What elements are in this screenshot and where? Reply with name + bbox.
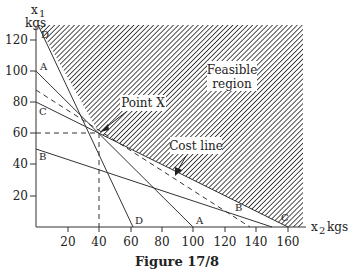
y-axis-var: x	[31, 3, 38, 17]
x-axis-unit: kgs	[327, 220, 348, 234]
label-b-right: B	[235, 202, 242, 213]
y-tick-120: 120	[5, 33, 28, 47]
y-ticks	[30, 40, 36, 196]
x-tick-160: 160	[277, 235, 300, 249]
y-tick-40: 40	[13, 157, 28, 171]
x-tick-120: 120	[214, 235, 237, 249]
feasible-label-1: Feasible	[207, 63, 258, 77]
y-axis-unit: kgs	[25, 16, 46, 30]
y-tick-80: 80	[13, 95, 28, 109]
label-c-left: C	[39, 106, 47, 117]
feasible-label-2: region	[212, 77, 252, 91]
label-b-left: B	[39, 151, 46, 162]
y-tick-20: 20	[13, 189, 28, 203]
x-tick-60: 60	[123, 235, 138, 249]
x-ticks	[68, 227, 288, 232]
label-d-top: D	[41, 29, 49, 40]
point-x-label: Point X	[121, 96, 165, 110]
y-tick-60: 60	[13, 126, 28, 140]
label-a-bottom: A	[195, 215, 204, 226]
chart: 20 40 60 80 100 120 20 40 60 80 100 120 …	[0, 0, 354, 276]
cost-line-label: Cost line	[169, 139, 223, 153]
label-d-bottom: D	[135, 215, 143, 226]
x-tick-20: 20	[60, 235, 75, 249]
feasible-region	[38, 25, 303, 227]
x-tick-100: 100	[182, 235, 205, 249]
x-axis-var: x	[311, 220, 318, 234]
figure-caption: Figure 17/8	[0, 254, 354, 269]
x-tick-80: 80	[154, 235, 169, 249]
x-axis-sub: 2	[319, 225, 325, 236]
label-a-left: A	[39, 61, 48, 72]
x-tick-140: 140	[245, 235, 268, 249]
label-c-right: C	[281, 212, 289, 223]
x-tick-40: 40	[91, 235, 106, 249]
y-tick-100: 100	[5, 64, 28, 78]
